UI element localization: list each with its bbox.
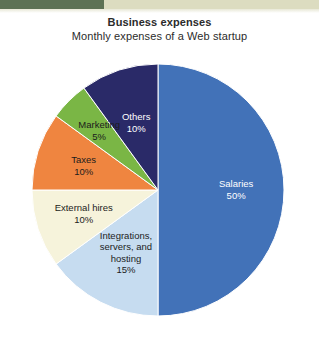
pie-slice-label-line: Others	[122, 111, 151, 122]
chart-title: Business expenses	[0, 15, 319, 29]
pie-slice-label-line: 15%	[116, 264, 136, 275]
chart-page: Business expenses Monthly expenses of a …	[0, 0, 319, 343]
pie-slice-label-line: External hires	[55, 202, 113, 213]
pie-slices	[32, 64, 284, 316]
pie-slice-label: Taxes10%	[71, 154, 96, 177]
pie-slice-label-line: 5%	[92, 130, 106, 141]
decorative-banner-dark	[0, 0, 104, 9]
pie-slice-label-line: Marketing	[78, 119, 120, 130]
pie-slice-label-line: 50%	[227, 189, 247, 200]
pie-slice-label-line: hosting	[111, 252, 142, 263]
pie-slice-label-line: 10%	[74, 213, 94, 224]
pie-slice-label-line: 10%	[74, 165, 94, 176]
pie-chart: Salaries50%Integrations,servers, andhost…	[0, 40, 319, 343]
pie-slice[interactable]	[158, 64, 284, 316]
pie-slice-label-line: Taxes	[71, 154, 96, 165]
pie-slice-label-line: Salaries	[219, 178, 254, 189]
pie-slice-label-line: 10%	[127, 122, 147, 133]
pie-slice-label-line: servers, and	[100, 241, 152, 252]
pie-chart-svg: Salaries50%Integrations,servers, andhost…	[0, 40, 319, 343]
decorative-banner-fade	[0, 9, 319, 13]
pie-slice-label-line: Integrations,	[100, 229, 152, 240]
